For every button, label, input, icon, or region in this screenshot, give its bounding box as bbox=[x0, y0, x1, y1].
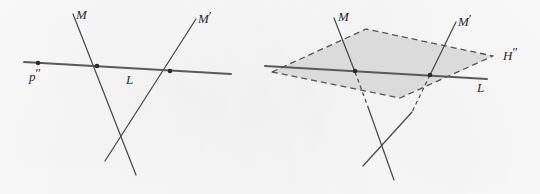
left-label-M-prime-mark: ′ bbox=[209, 8, 212, 23]
left-line-M bbox=[73, 14, 136, 175]
right-label-M: M bbox=[337, 9, 350, 24]
right-line-M-prime-lower bbox=[363, 112, 412, 166]
right-label-H-mark: ″ bbox=[512, 44, 517, 59]
left-panel: M M′ L p″ bbox=[24, 7, 231, 175]
right-panel: M M′ H″ L bbox=[265, 9, 518, 180]
right-intersection-mprime-l bbox=[428, 73, 433, 78]
right-label-M-prime-mark: ′ bbox=[469, 11, 472, 26]
right-label-H-base: H bbox=[502, 48, 513, 63]
left-label-p-mark: ″ bbox=[36, 65, 41, 80]
left-label-M: M bbox=[75, 7, 88, 22]
right-label-H-double-prime: H″ bbox=[502, 44, 518, 63]
left-intersection-mprime-l bbox=[168, 69, 173, 74]
left-label-M-prime: M′ bbox=[197, 8, 212, 26]
figure-root: M M′ L p″ bbox=[0, 0, 540, 194]
left-line-M-prime bbox=[105, 19, 196, 161]
plane-H-double-prime-fill bbox=[272, 29, 493, 98]
geometry-diagram: M M′ L p″ bbox=[0, 0, 540, 194]
left-label-L: L bbox=[125, 72, 133, 87]
left-label-p-double-prime: p″ bbox=[28, 65, 41, 84]
right-intersection-m-l bbox=[353, 69, 358, 74]
right-line-M-lower bbox=[368, 107, 394, 180]
right-label-L: L bbox=[476, 80, 484, 95]
left-intersection-m-l bbox=[95, 64, 100, 69]
right-label-M-prime: M′ bbox=[457, 11, 472, 29]
